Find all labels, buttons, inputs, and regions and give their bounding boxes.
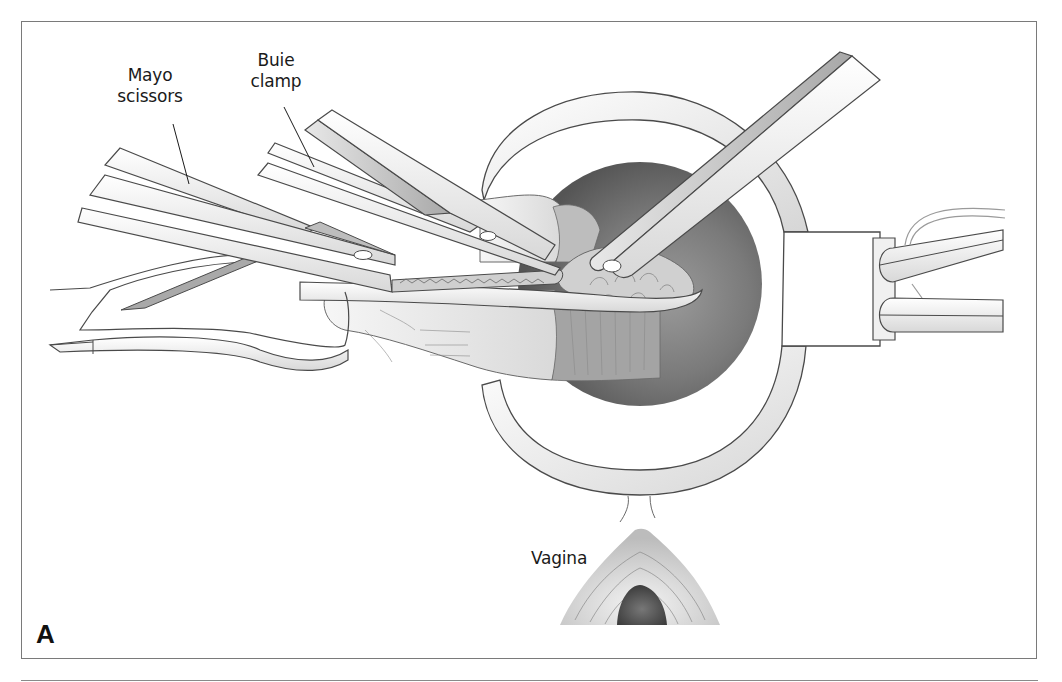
panel-letter: A — [36, 620, 55, 648]
label-vagina: Vagina — [519, 548, 599, 569]
label-mayo-scissors: Mayo scissors — [100, 65, 200, 107]
label-buie-clamp: Buie clamp — [236, 50, 316, 92]
